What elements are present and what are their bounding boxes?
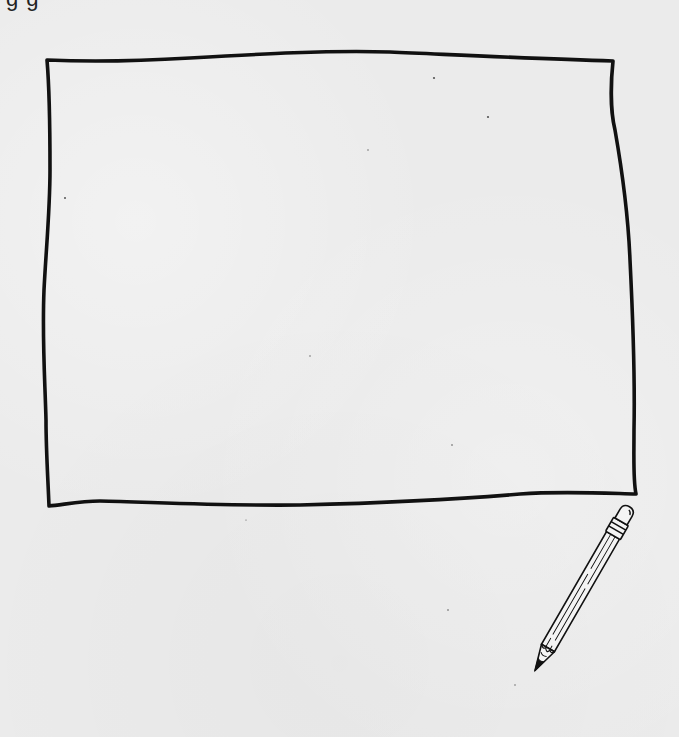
blank-drawing-frame: [43, 51, 636, 506]
drawing-canvas: [0, 0, 679, 737]
pencil-icon: [528, 503, 637, 675]
paper-specks: [64, 77, 516, 686]
